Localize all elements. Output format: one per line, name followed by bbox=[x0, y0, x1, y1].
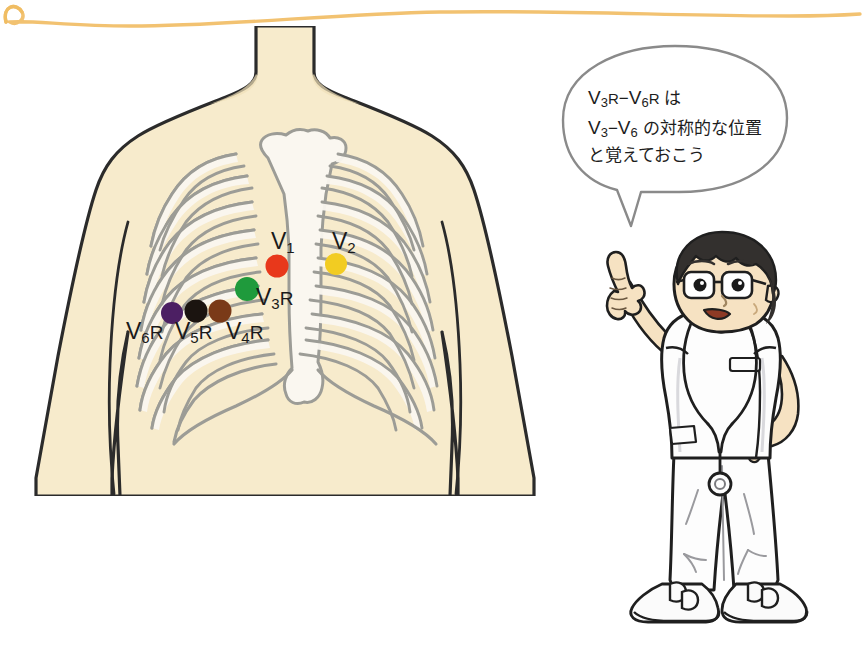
chest-anatomy-figure bbox=[0, 26, 570, 496]
balloon-line-3: と覚えておこう bbox=[588, 143, 793, 170]
electrode-dot-V2 bbox=[325, 253, 347, 275]
balloon-line-2: V3−V6 の対称的な位置 bbox=[588, 113, 793, 143]
electrode-label-V1: V1 bbox=[271, 230, 295, 253]
nurse-character bbox=[596, 228, 858, 628]
electrode-label-V4R: V4R bbox=[226, 320, 263, 343]
electrode-label-V6R: V6R bbox=[126, 320, 163, 343]
electrode-label-V2: V2 bbox=[332, 230, 356, 253]
electrode-label-V5R: V5R bbox=[175, 320, 212, 343]
illustration-page: V1 V2 V3R V4R V5R V6R V3R−V6R は V3−V6 の対… bbox=[0, 0, 862, 648]
electrode-dot-V1 bbox=[266, 255, 289, 278]
speech-balloon-text: V3R−V6R は V3−V6 の対称的な位置 と覚えておこう bbox=[588, 83, 793, 170]
nurse-sandals bbox=[631, 582, 807, 622]
electrode-label-V3R: V3R bbox=[256, 286, 293, 309]
nurse-head bbox=[674, 232, 779, 332]
stethoscope-chestpiece bbox=[709, 473, 731, 495]
balloon-line-1: V3R−V6R は bbox=[588, 83, 793, 113]
